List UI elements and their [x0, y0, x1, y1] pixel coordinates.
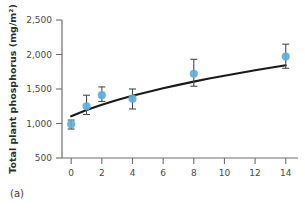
y-axis-title: Total plant phosphorus (mg/m²): [7, 4, 18, 174]
x-tick-label: 8: [191, 168, 197, 178]
data-point-marker: [98, 91, 106, 99]
data-point-marker: [128, 95, 136, 103]
data-point-marker: [282, 52, 290, 60]
y-tick-label: 500: [35, 153, 52, 163]
x-tick-label: 0: [68, 168, 74, 178]
data-point-marker: [190, 70, 198, 78]
y-tick-label: 2,500: [26, 15, 52, 25]
x-tick-label: 4: [130, 168, 136, 178]
data-point-marker: [67, 120, 75, 128]
panel-label: (a): [10, 188, 24, 199]
x-tick-label: 6: [160, 168, 166, 178]
y-tick-label: 1,000: [26, 119, 52, 129]
y-tick-label: 1,500: [26, 84, 52, 94]
x-tick-label: 14: [280, 168, 292, 178]
x-tick-label: 10: [219, 168, 231, 178]
data-point-marker: [82, 102, 90, 110]
x-tick-label: 12: [249, 168, 260, 178]
figure-panel: 5001,0001,5002,0002,500 02468101214 Tota…: [0, 0, 305, 209]
y-tick-label: 2,000: [26, 50, 52, 60]
x-tick-label: 2: [99, 168, 105, 178]
phosphorus-scatter-chart: 5001,0001,5002,0002,500 02468101214 Tota…: [0, 0, 305, 209]
